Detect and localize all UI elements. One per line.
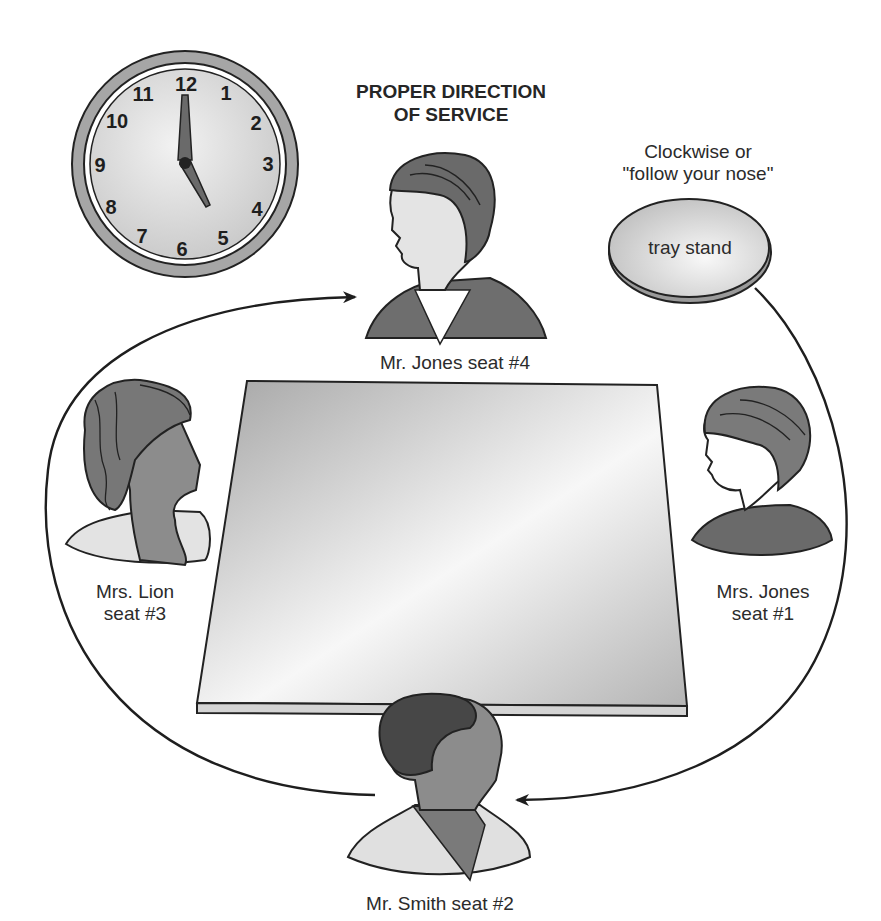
seat-label-mrs-jones: Mrs. Jones seat #1 xyxy=(688,581,838,625)
svg-text:5: 5 xyxy=(217,227,228,249)
page-title: PROPER DIRECTION OF SERVICE xyxy=(326,80,576,126)
title-line-2: OF SERVICE xyxy=(326,103,576,126)
svg-text:8: 8 xyxy=(105,196,116,218)
svg-text:4: 4 xyxy=(251,198,263,220)
direction-note-line-2: "follow your nose" xyxy=(608,163,788,185)
direction-note: Clockwise or "follow your nose" xyxy=(608,141,788,185)
svg-text:7: 7 xyxy=(136,225,147,247)
tray-stand-label: tray stand xyxy=(630,237,750,259)
seat-label-mrs-lion: Mrs. Lion seat #3 xyxy=(60,581,210,625)
service-diagram: 12 1 2 3 4 5 6 7 8 9 10 11 xyxy=(0,0,881,921)
svg-text:1: 1 xyxy=(220,82,231,104)
clock-icon: 12 1 2 3 4 5 6 7 8 9 10 11 xyxy=(72,51,298,277)
svg-text:3: 3 xyxy=(262,153,273,175)
seat-label-mr-smith: Mr. Smith seat #2 xyxy=(340,893,540,915)
svg-text:12: 12 xyxy=(175,73,197,95)
svg-text:10: 10 xyxy=(106,110,128,132)
mrs-lion-name: Mrs. Lion xyxy=(60,581,210,603)
svg-text:11: 11 xyxy=(132,83,153,105)
guest-mrs-jones xyxy=(692,387,832,555)
mrs-jones-seat: seat #1 xyxy=(688,603,838,625)
guest-mr-jones xyxy=(366,153,546,344)
direction-note-line-1: Clockwise or xyxy=(608,141,788,163)
dining-table xyxy=(197,381,687,716)
mrs-jones-name: Mrs. Jones xyxy=(688,581,838,603)
seat-label-mr-jones: Mr. Jones seat #4 xyxy=(355,352,555,374)
svg-text:9: 9 xyxy=(94,154,105,176)
guest-mrs-lion xyxy=(66,380,210,565)
svg-text:6: 6 xyxy=(176,238,187,260)
guest-mr-smith xyxy=(348,694,530,880)
svg-text:2: 2 xyxy=(250,112,261,134)
mrs-lion-seat: seat #3 xyxy=(60,603,210,625)
title-line-1: PROPER DIRECTION xyxy=(326,80,576,103)
